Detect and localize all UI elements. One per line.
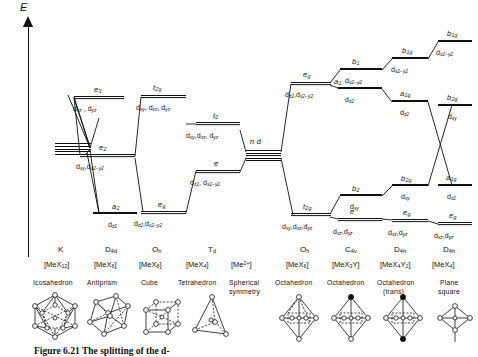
level-bar-b2g-sq [438, 104, 472, 106]
complex-spherical: [Me2+] [231, 261, 252, 269]
level-bar-eg-cube [141, 211, 186, 212]
level-term-b2-c4v: b2 [352, 185, 360, 194]
level-term-e-td: e [214, 160, 218, 168]
level-orbitals-a1g-sq: dz2 [447, 193, 456, 202]
level-term-e2: e2 [99, 144, 107, 153]
level-bar-eg-sq [438, 222, 472, 223]
level-term-t2g-cube: t2g [153, 84, 162, 93]
level-orbitals-b1g-sq: dx2−y2 [436, 49, 453, 58]
level-bar-b1-c4v [340, 68, 382, 70]
icosahedron-icon [30, 292, 80, 340]
level-bar-e-td [196, 170, 240, 171]
level-bar-a1g-sq [438, 184, 472, 186]
level-bar-eg-oh [291, 82, 331, 83]
geometry-Td: Tetrahedron [178, 280, 216, 287]
level-bar-b1g-d4h [392, 57, 428, 59]
level-bar-e-c4v [338, 218, 382, 219]
level-term-b2g-sq: b2g [447, 94, 458, 103]
figure-caption: Figure 6.21 The splitting of the d- [34, 346, 170, 356]
level-bar-a1-c4v [338, 87, 382, 89]
level-orbitals-t2g-cube: dxy, dxz, dyz [136, 104, 170, 113]
level-term-a1-c4v: a1 [334, 78, 342, 87]
figure-crystal-field-splitting: E [0, 0, 478, 357]
level-bar-eg-d4h [392, 219, 428, 220]
level-orbitals-eg-oh: dz2,dx2−y2 [285, 91, 313, 100]
level-term-a1g-sq: a1g [446, 174, 457, 183]
level-orbitals-t2g-oh: dxy,dxz,dyz [282, 223, 312, 232]
geometry-D4h-trans-1: Octahedron [377, 280, 415, 287]
level-bar-a1g-d4h [392, 100, 428, 102]
complex-C4v: [MeX3Y] [332, 261, 360, 270]
level-term-t2g-oh: t2g [303, 203, 312, 212]
octahedron-icon [278, 294, 320, 342]
geometry-Oh: Octahedron [275, 280, 313, 287]
point-group-D4d: D4d [105, 246, 117, 255]
level-orbitals-a1g-d4h: dz2 [400, 109, 409, 118]
geometry-Oh-cube: Cube [141, 280, 158, 287]
level-orbitals-b1g-d4h: dx2−y2 [391, 66, 408, 75]
point-group-Td: Td [208, 246, 216, 255]
level-orbitals-eg-d4h: dxz,dyz [388, 229, 408, 238]
cube-icon [140, 296, 184, 340]
level-orbitals-e3: dxz , dyz [73, 105, 96, 114]
level-bar-e3 [74, 96, 124, 97]
geometry-C4v: Octahedron [327, 280, 365, 287]
level-bar-b2g-d4h [392, 184, 428, 186]
level-bar-t2-td [196, 122, 240, 123]
level-term-eg-oh: eg [303, 71, 311, 80]
level-orbitals-eg-cube: dz2,dx2−y2 [134, 220, 162, 229]
level-term-e3: e3 [94, 86, 102, 95]
level-orbitals-eg-sq: dxz,dyz [434, 232, 454, 241]
level-orbitals-a1-c4v: dz2 [345, 96, 354, 105]
level-term-b2g-d4h: b2g [401, 175, 412, 184]
level-term-a2: a2 [112, 203, 120, 212]
level-term-nd: n d [250, 138, 261, 146]
level-orbitals-b1-c4v: dx2−y2 [345, 77, 362, 86]
level-term-eg-d4h: eg [403, 209, 411, 218]
octahedron-trans-icon [382, 294, 424, 342]
tetrahedron-icon [190, 294, 232, 340]
level-term-a1g-d4h: a1g [400, 90, 411, 99]
geometry-D4d: Antiprism [87, 280, 117, 287]
complex-D4d: [MeX8] [94, 261, 117, 270]
complex-K: [MeX12] [44, 261, 69, 270]
point-group-Oh-cube: Oh [152, 246, 161, 255]
point-group-D4h-square: D4h [443, 246, 455, 255]
point-group-K: K [58, 246, 63, 254]
level-bar-b2-c4v [340, 194, 382, 196]
geometry-spherical-1: Spherical [229, 280, 259, 287]
level-bar-t2g-cube [141, 95, 186, 96]
level-orbitals-e2: dxy,dx2−y2 [76, 163, 104, 172]
point-group-D4h-trans: D4h [394, 246, 406, 255]
level-bar-t2g-oh [291, 213, 331, 214]
complex-Oh-cube: [MeX8] [139, 261, 162, 270]
square-planar-icon [434, 300, 476, 342]
complex-D4h-trans: [MeX4Y2] [380, 261, 410, 270]
geometry-K: Icosahedron [33, 280, 73, 287]
level-orbitals-e-c4v: dxz,dyz [333, 228, 353, 237]
level-orbitals-b2g-d4h: dxy [401, 193, 410, 202]
octahedron-c4v-icon [330, 294, 372, 342]
complex-Oh: [MeX6] [286, 261, 309, 270]
geometry-D4h-square-2: square [438, 289, 460, 296]
square-antiprism-icon [86, 292, 132, 340]
level-term-b1g-d4h: b1g [402, 47, 413, 56]
level-bar-a2 [93, 212, 137, 214]
point-group-Oh: Oh [300, 246, 309, 255]
level-nd-bundle [246, 150, 281, 161]
level-term-eg-cube: eg [158, 201, 166, 210]
level-orbitals-t2-td: dxy,dxz, dyz [186, 132, 218, 141]
level-term-b1-c4v: b1 [352, 58, 360, 67]
level-orbitals-b2g-sq: dxy [448, 113, 457, 122]
level-term-t2-td: t2 [213, 112, 218, 121]
level-bar-b1g-sq [438, 40, 472, 42]
level-bar-e2 [80, 154, 135, 155]
complex-Td: [MeX4] [186, 261, 209, 270]
level-term-eg-sq: eg [449, 212, 457, 221]
level-term-e-c4v: e [350, 208, 354, 216]
point-group-C4v: C4v [345, 246, 357, 255]
geometry-spherical-2: symmetry [229, 289, 260, 296]
geometry-D4h-square-1: Plane [440, 280, 458, 287]
level-term-b1g-sq: b1g [447, 30, 458, 39]
level-orbitals-a2: dz2 [108, 221, 117, 230]
